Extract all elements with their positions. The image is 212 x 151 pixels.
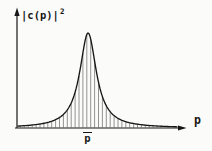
y-axis-label: |c(p)|2 — [21, 4, 64, 23]
x-axis-arrowhead — [178, 125, 187, 130]
wave-packet-momentum-figure: |c(p)|2 p p — [0, 0, 212, 151]
x-axis-label: p — [194, 114, 201, 126]
peak-position-label: p — [79, 131, 96, 144]
y-axis-label-exponent: 2 — [60, 7, 65, 16]
y-axis-arrowhead — [14, 8, 19, 17]
distribution-curve — [18, 33, 177, 127]
y-axis-label-base: |c(p)| — [21, 9, 59, 21]
p-bar-text: p — [83, 132, 91, 144]
hatch-fill — [21, 35, 173, 127]
